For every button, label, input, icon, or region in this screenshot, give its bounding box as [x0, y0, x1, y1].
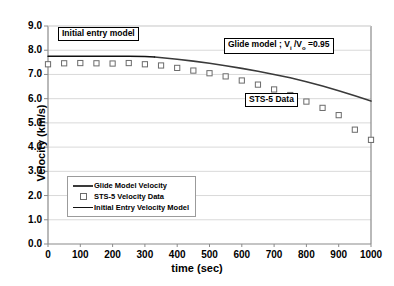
data-point-marker: [45, 62, 50, 67]
data-point-marker: [272, 87, 277, 92]
y-tick-label: 0.0: [10, 238, 42, 249]
y-tick-label: 5.0: [10, 117, 42, 128]
data-point-marker: [78, 60, 83, 65]
data-point-marker: [255, 82, 260, 87]
y-tick-label: 4.0: [10, 141, 42, 152]
data-point-marker: [62, 61, 67, 66]
data-point-marker: [110, 61, 115, 66]
legend-item: STS-5 Velocity Data: [72, 191, 189, 202]
x-axis-label: time (sec): [0, 262, 394, 274]
plot-canvas: [0, 0, 394, 286]
data-point-marker: [368, 137, 373, 142]
y-tick-label: 3.0: [10, 165, 42, 176]
y-tick-label: 2.0: [10, 190, 42, 201]
initial-entry-model-callout: Initial entry model: [58, 27, 139, 41]
data-point-marker: [142, 62, 147, 67]
glide-callout-mid: /V: [292, 39, 302, 49]
x-tick-label: 1000: [351, 249, 391, 260]
velocity-vs-time-chart: Velocity (km/s) time (sec) 0.01.02.03.04…: [0, 0, 394, 286]
data-point-marker: [239, 78, 244, 83]
data-point-marker: [223, 74, 228, 79]
data-point-marker: [158, 63, 163, 68]
data-point-marker: [336, 113, 341, 118]
sts5-data-callout: STS-5 Data: [245, 93, 298, 107]
legend-key-marker-icon: [72, 191, 94, 202]
y-tick-label: 9.0: [10, 20, 42, 31]
y-tick-label: 7.0: [10, 68, 42, 79]
y-tick-label: 1.0: [10, 214, 42, 225]
y-tick-label: 6.0: [10, 93, 42, 104]
chart-legend: Glide Model VelocitySTS-5 Velocity DataI…: [67, 176, 196, 217]
data-point-marker: [352, 127, 357, 132]
glide-callout-prefix: Glide model ; V: [228, 39, 290, 49]
data-point-marker: [320, 105, 325, 110]
data-point-marker: [304, 99, 309, 104]
data-point-marker: [94, 61, 99, 66]
data-point-marker: [175, 65, 180, 70]
legend-label: Initial Entry Velocity Model: [94, 203, 189, 212]
glide-callout-suffix: =0.95: [306, 39, 330, 49]
data-point-marker: [207, 71, 212, 76]
y-tick-label: 8.0: [10, 44, 42, 55]
legend-label: STS-5 Velocity Data: [94, 192, 164, 201]
legend-key-line-icon: [72, 180, 94, 191]
data-point-marker: [126, 60, 131, 65]
legend-key-thin-icon: [72, 202, 94, 213]
glide-model-callout: Glide model ; Vi /Vo =0.95: [224, 38, 334, 54]
legend-item: Glide Model Velocity: [72, 180, 189, 191]
legend-item: Initial Entry Velocity Model: [72, 202, 189, 213]
series-line: [48, 56, 155, 57]
legend-label: Glide Model Velocity: [94, 181, 167, 190]
data-point-marker: [191, 68, 196, 73]
